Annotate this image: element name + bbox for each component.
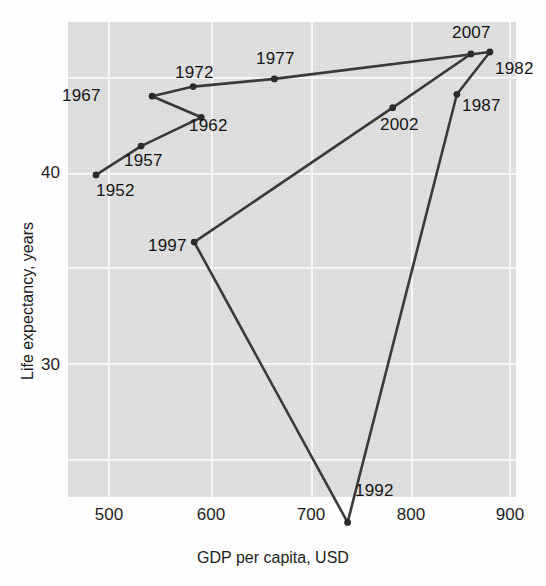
data-point-2002 <box>389 104 396 111</box>
chart-figure: 500 600 700 800 900 40 30 Life expectanc… <box>0 0 546 586</box>
annotation-1972: 1972 <box>175 63 214 83</box>
data-point-1992 <box>344 519 351 526</box>
data-point-markers <box>93 49 494 526</box>
data-point-1957 <box>138 143 145 150</box>
data-point-1982 <box>487 49 494 56</box>
y-axis-title: Life expectancy, years <box>19 201 37 401</box>
xtick-700: 700 <box>297 505 325 525</box>
annotation-1997: 1997 <box>148 236 187 256</box>
annotation-1957: 1957 <box>124 151 163 171</box>
xtick-600: 600 <box>197 505 225 525</box>
data-point-1977 <box>271 76 278 83</box>
annotation-1952: 1952 <box>96 181 135 201</box>
data-point-1987 <box>454 91 461 98</box>
annotation-2007: 2007 <box>452 23 491 43</box>
annotation-2002: 2002 <box>380 115 419 135</box>
data-point-1997 <box>191 239 198 246</box>
data-point-2007 <box>468 51 475 58</box>
annotation-1982: 1982 <box>495 59 534 79</box>
xtick-800: 800 <box>397 505 425 525</box>
data-point-1972 <box>190 83 197 90</box>
trajectory-line <box>96 52 490 522</box>
ytick-40: 40 <box>20 163 60 183</box>
annotation-1962: 1962 <box>189 116 228 136</box>
x-axis-title: GDP per capita, USD <box>0 549 546 567</box>
xtick-900: 900 <box>496 505 524 525</box>
data-point-1967 <box>149 93 156 100</box>
annotation-1977: 1977 <box>256 49 295 69</box>
annotation-1987: 1987 <box>462 96 501 116</box>
data-point-1952 <box>93 172 100 179</box>
xtick-500: 500 <box>95 505 123 525</box>
annotation-1967: 1967 <box>62 86 101 106</box>
annotation-1992: 1992 <box>355 481 394 501</box>
